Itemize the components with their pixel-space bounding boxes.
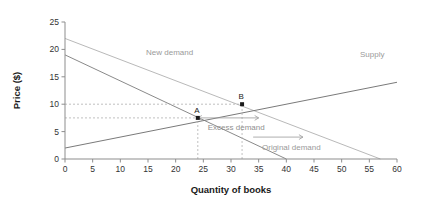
x-tick-label: 30: [226, 164, 236, 174]
x-tick-label: 45: [309, 164, 319, 174]
chart-plot-area: 051015202530354045505560 0510152025 Supp…: [0, 0, 427, 200]
point-a-marker: [196, 116, 200, 120]
original-demand-curve: [65, 55, 286, 159]
excess-demand-label: Excess demand: [208, 123, 265, 132]
x-tick-label: 55: [365, 164, 375, 174]
y-tick-labels: 0510152025: [50, 17, 60, 164]
x-tick-labels: 051015202530354045505560: [63, 164, 402, 174]
point-b-label: B: [238, 92, 243, 101]
x-tick-marks: [65, 159, 397, 163]
x-tick-label: 10: [116, 164, 126, 174]
y-tick-label: 15: [50, 72, 60, 82]
supply-curve: [65, 82, 397, 148]
y-tick-label: 10: [50, 99, 60, 109]
y-tick-label: 5: [54, 127, 59, 137]
x-tick-label: 40: [282, 164, 292, 174]
new-demand-curve: [65, 38, 380, 159]
y-axis-title: Price ($): [11, 72, 22, 110]
y-tick-label: 25: [50, 17, 60, 27]
point-b-marker: [240, 102, 244, 106]
curves-group: [65, 38, 397, 159]
x-tick-label: 20: [171, 164, 181, 174]
x-tick-label: 60: [392, 164, 402, 174]
x-tick-label: 25: [199, 164, 209, 174]
demand-shift-arrow: [253, 135, 303, 140]
x-tick-label: 5: [90, 164, 95, 174]
y-tick-label: 0: [54, 154, 59, 164]
y-tick-label: 20: [50, 44, 60, 54]
curve-labels-group: Supply New demand Original demand: [146, 48, 384, 152]
new-demand-curve-label: New demand: [146, 48, 193, 57]
x-tick-label: 35: [254, 164, 264, 174]
x-axis-title: Quantity of books: [191, 184, 272, 195]
x-tick-label: 50: [337, 164, 347, 174]
supply-curve-label: Supply: [360, 50, 384, 59]
x-tick-label: 0: [63, 164, 68, 174]
axes-group: 051015202530354045505560 0510152025: [50, 17, 402, 174]
y-tick-marks: [62, 22, 66, 159]
original-demand-curve-label: Original demand: [262, 143, 321, 152]
supply-demand-chart: 051015202530354045505560 0510152025 Supp…: [0, 0, 427, 200]
x-tick-label: 15: [143, 164, 153, 174]
point-a-label: A: [194, 106, 200, 115]
